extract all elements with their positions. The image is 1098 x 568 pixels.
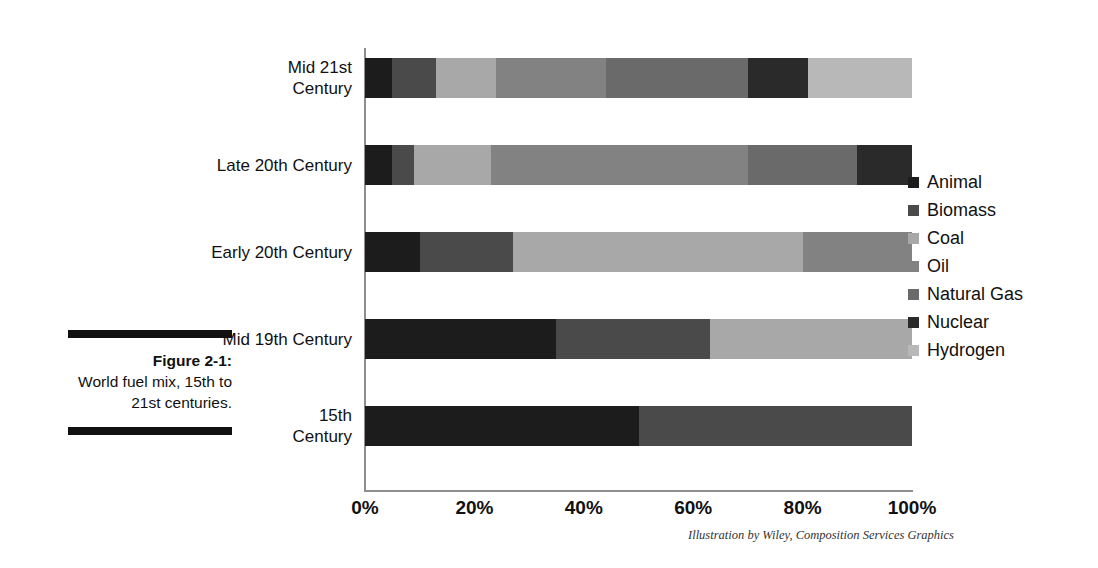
legend-item-label: Biomass xyxy=(927,200,996,221)
bar-segment xyxy=(639,406,913,446)
bar-segment xyxy=(748,58,808,98)
legend-item-label: Oil xyxy=(927,256,949,277)
legend-item: Oil xyxy=(908,252,1023,280)
bar-segment xyxy=(491,145,748,185)
legend-swatch-icon xyxy=(908,317,919,328)
bar-segment xyxy=(392,145,414,185)
x-axis-tick-label: 100% xyxy=(877,497,947,519)
bar-row xyxy=(365,406,912,446)
legend-swatch-icon xyxy=(908,261,919,272)
bar-row xyxy=(365,145,912,185)
y-axis-tick-label: Early 20th Century xyxy=(152,242,352,263)
y-axis-tick-label: Mid 19th Century xyxy=(152,329,352,350)
legend-item-label: Nuclear xyxy=(927,312,989,333)
legend-swatch-icon xyxy=(908,233,919,244)
bar-row xyxy=(365,58,912,98)
legend-item-label: Coal xyxy=(927,228,964,249)
chart-legend: AnimalBiomassCoalOilNatural GasNuclearHy… xyxy=(908,168,1023,364)
x-axis-tick-label: 40% xyxy=(549,497,619,519)
y-axis-tick-label: 15th Century xyxy=(152,405,352,447)
bar-segment xyxy=(414,145,491,185)
bar-segment xyxy=(420,232,513,272)
bar-segment xyxy=(365,145,392,185)
bar-segment xyxy=(803,232,912,272)
illustration-credit: Illustration by Wiley, Composition Servi… xyxy=(688,528,954,543)
bar-segment xyxy=(365,319,556,359)
x-axis-tick-label: 80% xyxy=(768,497,838,519)
bar-segment xyxy=(710,319,912,359)
legend-item: Hydrogen xyxy=(908,336,1023,364)
x-axis-tick-label: 20% xyxy=(439,497,509,519)
bar-segment xyxy=(392,58,436,98)
y-axis-tick-label: Late 20th Century xyxy=(152,155,352,176)
legend-item: Nuclear xyxy=(908,308,1023,336)
legend-item: Coal xyxy=(908,224,1023,252)
bar-segment xyxy=(556,319,709,359)
bar-segment xyxy=(513,232,803,272)
bar-segment xyxy=(365,406,639,446)
x-axis-tick-label: 0% xyxy=(330,497,400,519)
legend-item: Natural Gas xyxy=(908,280,1023,308)
x-axis-tick-label: 60% xyxy=(658,497,728,519)
legend-item-label: Natural Gas xyxy=(927,284,1023,305)
bar-row xyxy=(365,319,912,359)
legend-item: Biomass xyxy=(908,196,1023,224)
bar-segment xyxy=(808,58,912,98)
bar-segment xyxy=(365,58,392,98)
legend-item: Animal xyxy=(908,168,1023,196)
bar-segment xyxy=(436,58,496,98)
legend-item-label: Animal xyxy=(927,172,982,193)
y-axis-tick-label: Mid 21st Century xyxy=(152,57,352,99)
bar-segment xyxy=(748,145,857,185)
bar-segment xyxy=(365,232,420,272)
legend-swatch-icon xyxy=(908,205,919,216)
plot-area xyxy=(365,48,912,490)
bar-segment xyxy=(496,58,605,98)
legend-swatch-icon xyxy=(908,289,919,300)
legend-item-label: Hydrogen xyxy=(927,340,1005,361)
legend-swatch-icon xyxy=(908,345,919,356)
bar-row xyxy=(365,232,912,272)
legend-swatch-icon xyxy=(908,177,919,188)
bar-segment xyxy=(606,58,748,98)
x-axis-line xyxy=(364,490,913,492)
bar-segment xyxy=(857,145,912,185)
